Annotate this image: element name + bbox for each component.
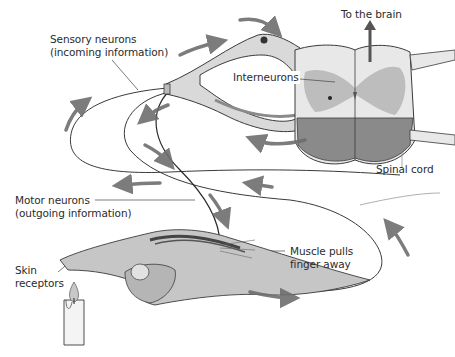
arrow-top-over xyxy=(240,19,275,30)
faint-arc xyxy=(360,193,440,205)
arrow-top-left xyxy=(180,42,218,55)
arrow-up-left xyxy=(66,103,84,130)
arrow-up-right xyxy=(390,226,408,255)
to-brain-label: To the brain xyxy=(341,8,402,21)
arrow-down-1 xyxy=(145,145,168,162)
skin-receptors-label: Skin receptors xyxy=(15,264,64,289)
candle xyxy=(64,282,84,345)
arrow-left-mid xyxy=(252,184,272,187)
sensory-neurons-label: Sensory neurons (incoming information) xyxy=(50,33,168,58)
arrow-lower-left xyxy=(255,140,305,144)
skin-line2: receptors xyxy=(15,277,64,290)
sensory-line2: (incoming information) xyxy=(50,46,168,59)
sensory-line1: Sensory neurons xyxy=(50,33,168,46)
motor-neuron-line xyxy=(156,90,220,245)
motor-line2: (outgoing information) xyxy=(15,207,131,220)
muscle-label: Muscle pulls finger away xyxy=(290,245,353,270)
motor-line1: Motor neurons xyxy=(15,194,131,207)
arrow-left-loop xyxy=(122,183,160,185)
sensory-pointer xyxy=(112,60,138,90)
reflex-arc-diagram: Sensory neurons (incoming information) I… xyxy=(0,0,455,357)
ganglion-cell-body xyxy=(261,37,268,44)
arrow-down-2 xyxy=(210,195,225,220)
spinal-cord-label: Spinal cord xyxy=(376,163,434,176)
muscle-line2: finger away xyxy=(290,258,353,271)
interneurons-label: Interneurons xyxy=(232,71,300,84)
muscle-line1: Muscle pulls xyxy=(290,245,353,258)
spinal-cord xyxy=(295,45,455,164)
motor-neurons-label: Motor neurons (outgoing information) xyxy=(15,194,131,219)
skin-line1: Skin xyxy=(15,264,64,277)
